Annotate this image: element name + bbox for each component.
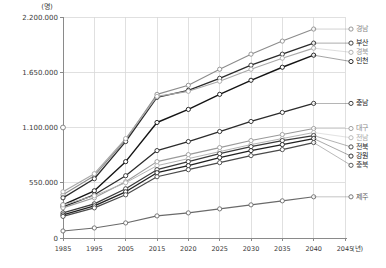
legend-label-인천: 인천: [356, 56, 368, 65]
data-point-경북: [61, 190, 65, 194]
legend-label-전남: 전남: [356, 133, 369, 142]
data-point-대구: [186, 153, 190, 157]
data-point-강원: [249, 149, 253, 153]
data-point-전북: [186, 160, 190, 164]
data-point-제주: [280, 199, 284, 203]
data-point-강원: [186, 164, 190, 168]
x-tick-label: 2045: [337, 245, 354, 253]
data-point-제주: [61, 229, 65, 233]
y-tick-label: 2.200.000: [22, 14, 58, 22]
legend-marker-강원: [349, 154, 353, 158]
data-point-경북: [124, 136, 128, 140]
legend-label-경북: 경북: [356, 47, 369, 56]
legend-label-대구: 대구: [356, 124, 369, 132]
data-point-전북: [218, 152, 222, 156]
data-point-제주: [124, 221, 128, 225]
data-point-충남: [249, 119, 253, 123]
x-tick-label: 1995: [86, 245, 103, 253]
data-point-강원: [280, 142, 284, 146]
data-point-인천: [218, 92, 222, 96]
data-point-경북: [186, 89, 190, 93]
legend-marker-부산: [349, 41, 353, 45]
data-point-전남: [124, 181, 128, 185]
data-point-대구: [218, 145, 222, 149]
data-point-전북: [280, 138, 284, 142]
data-point-경남: [249, 52, 253, 56]
data-point-제주: [155, 214, 159, 218]
data-point-제주: [218, 207, 222, 211]
data-point-전남: [92, 194, 96, 198]
chart-container: 0550.0001.100.0001.650.0002.200.000(명)19…: [0, 0, 386, 268]
y-axis-ticks: 0550.0001.100.0001.650.0002.200.000: [22, 14, 63, 243]
x-tick-label: 2030: [243, 245, 260, 253]
data-point-인천: [249, 78, 253, 82]
line-chart: 0550.0001.100.0001.650.0002.200.000(명)19…: [0, 0, 386, 268]
data-point-경북: [92, 172, 96, 176]
x-axis-ticks: 1985199520052015202020252030203520402045: [55, 238, 354, 253]
data-point-충북: [218, 161, 222, 165]
data-point-전남: [155, 164, 159, 168]
data-point-강원: [155, 171, 159, 175]
data-point-경북: [155, 94, 159, 98]
legend-marker-인천: [349, 59, 353, 63]
data-point-충북: [124, 193, 128, 197]
legend-marker-충북: [349, 163, 353, 167]
data-point-경북: [218, 79, 222, 83]
data-point-제주: [92, 226, 96, 230]
data-point-제주: [249, 203, 253, 207]
data-point-경남: [280, 39, 284, 43]
legend-label-제주: 제주: [356, 193, 369, 201]
data-point-충남: [218, 129, 222, 133]
data-point-충남: [124, 174, 128, 178]
data-point-대구: [155, 160, 159, 164]
data-point-인천: [155, 120, 159, 124]
data-point-충북: [186, 168, 190, 172]
legend-label-전북: 전북: [356, 142, 369, 151]
data-point-인천: [280, 65, 284, 69]
y-tick-label: 1.100.000: [22, 124, 58, 132]
legend-marker-전남: [349, 136, 353, 140]
legend-label-부산: 부산: [356, 38, 369, 47]
data-point-경북: [280, 56, 284, 60]
y-axis-unit-label: (명): [41, 2, 53, 11]
data-point-충남: [155, 149, 159, 153]
legend-label-충북: 충북: [356, 160, 369, 169]
x-tick-label: 1985: [55, 245, 72, 253]
gridlines: [63, 17, 345, 238]
x-tick-label: 2040: [305, 245, 322, 253]
data-point-경남: [218, 67, 222, 71]
data-point-충북: [61, 214, 65, 218]
data-point-제주: [186, 211, 190, 215]
data-point-충북: [249, 154, 253, 158]
x-tick-label: 2005: [117, 245, 134, 253]
legend-marker-전북: [349, 145, 353, 149]
y-tick-label: 0: [54, 235, 58, 243]
y-tick-label: 1.650.000: [22, 69, 58, 77]
legend-label-경남: 경남: [356, 24, 369, 33]
x-tick-label: 2020: [180, 245, 197, 253]
legend-marker-경북: [349, 50, 353, 54]
data-point-충남: [280, 110, 284, 114]
legend-label-강원: 강원: [356, 151, 368, 160]
x-tick-label: 2035: [274, 245, 291, 253]
data-point-전남: [61, 203, 65, 207]
y-tick-label: 550.000: [29, 179, 58, 187]
data-point-충남: [186, 139, 190, 143]
isolated-data-point: [61, 125, 66, 130]
legend-marker-제주: [349, 195, 353, 199]
data-point-인천: [186, 107, 190, 111]
data-point-경북: [249, 67, 253, 71]
data-point-인천: [124, 160, 128, 164]
data-point-대구: [280, 132, 284, 136]
data-point-충북: [155, 175, 159, 179]
x-tick-label: 2015: [149, 245, 166, 253]
legend-marker-충남: [349, 101, 353, 105]
legend-marker-대구: [349, 126, 353, 130]
data-point-강원: [218, 156, 222, 160]
legend-marker-경남: [349, 27, 353, 31]
data-point-부산: [92, 177, 96, 181]
data-point-충북: [280, 148, 284, 152]
data-point-충북: [92, 206, 96, 210]
legend-label-충남: 충남: [356, 98, 369, 107]
data-point-대구: [249, 138, 253, 142]
